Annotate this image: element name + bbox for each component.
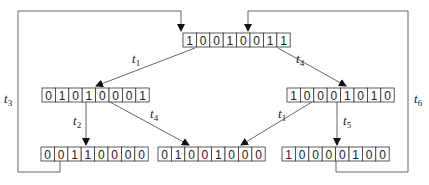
- edge-t1-root-midleft: [96, 48, 195, 86]
- bit-register-bot-right: 10000100: [282, 147, 389, 162]
- bit-value: 0: [98, 148, 105, 162]
- bit-value: 1: [371, 89, 378, 103]
- edge-label-t1: t1: [278, 106, 286, 123]
- bit-value: 0: [228, 148, 235, 162]
- bit-value: 0: [125, 148, 132, 162]
- bit-register-mid-left: 01010001: [42, 88, 149, 103]
- bit-value: 1: [344, 89, 351, 103]
- bit-value: 1: [186, 34, 193, 48]
- bit-value: 0: [326, 148, 333, 162]
- bit-value: 0: [304, 89, 311, 103]
- bit-value: 1: [139, 89, 146, 103]
- bit-value: 0: [331, 89, 338, 103]
- bit-value: 1: [59, 89, 66, 103]
- bit-value: 1: [85, 148, 92, 162]
- edge-label-t5: t5: [343, 113, 352, 130]
- bit-value: 0: [99, 89, 106, 103]
- edge-label-t4: t4: [150, 106, 159, 123]
- edge-label-t1: t1: [132, 51, 140, 68]
- bit-value: 0: [384, 89, 391, 103]
- bit-register-root: 10010011: [183, 33, 290, 48]
- bit-register-mid-right: 10001010: [287, 88, 394, 103]
- bit-value: 0: [138, 148, 145, 162]
- bit-value: 0: [366, 148, 373, 162]
- bit-value: 0: [253, 34, 260, 48]
- bit-register-bot-center: 01001000: [158, 147, 265, 162]
- bit-value: 0: [188, 148, 195, 162]
- edge-label-t3: t3: [4, 91, 13, 108]
- bit-value: 1: [290, 89, 297, 103]
- bit-value: 0: [72, 89, 79, 103]
- bit-value: 1: [175, 148, 182, 162]
- bit-value: 1: [86, 89, 93, 103]
- bit-value: 0: [112, 89, 119, 103]
- bit-value: 0: [161, 148, 168, 162]
- bit-value: 1: [280, 34, 287, 48]
- bit-value: 0: [312, 148, 319, 162]
- bit-value: 1: [352, 148, 359, 162]
- bit-value: 0: [58, 148, 65, 162]
- bit-value: 0: [317, 89, 324, 103]
- bit-value: 0: [240, 34, 247, 48]
- edge-t4-root-midright: [278, 48, 346, 86]
- edge-label-t4: t4: [296, 51, 305, 68]
- bit-value: 0: [357, 89, 364, 103]
- edge-t1-midright-botcenter: [241, 102, 312, 145]
- bit-value: 1: [267, 34, 274, 48]
- bit-register-bot-left: 00110000: [41, 147, 148, 162]
- bit-value: 0: [299, 148, 306, 162]
- bit-value: 0: [202, 148, 209, 162]
- bit-value: 0: [126, 89, 133, 103]
- bit-value: 0: [242, 148, 249, 162]
- bit-value: 1: [285, 148, 292, 162]
- bit-value: 0: [44, 148, 51, 162]
- edge-label-t6: t6: [414, 91, 423, 108]
- bit-value: 0: [255, 148, 262, 162]
- state-transition-diagram: 1001001101010001100010100011000001001000…: [0, 0, 429, 185]
- bit-value: 0: [200, 34, 207, 48]
- bit-value: 1: [215, 148, 222, 162]
- bit-value: 0: [339, 148, 346, 162]
- bit-value: 0: [379, 148, 386, 162]
- bit-value: 1: [71, 148, 78, 162]
- bit-value: 0: [111, 148, 118, 162]
- edge-label-t2: t2: [73, 113, 81, 130]
- bit-value: 1: [227, 34, 234, 48]
- bit-value: 0: [45, 89, 52, 103]
- bit-value: 0: [213, 34, 220, 48]
